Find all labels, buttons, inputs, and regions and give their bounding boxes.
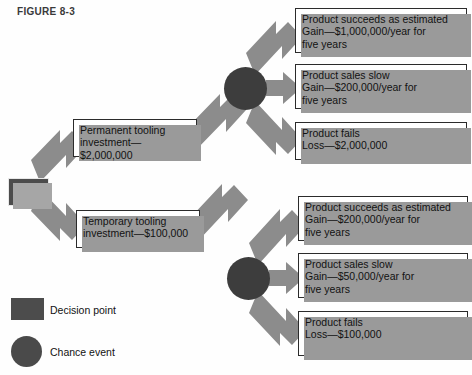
decision-point-square[interactable] — [8, 178, 49, 206]
legend-chance-swatch — [11, 336, 42, 367]
outcome-box-temp-slow[interactable]: Product sales slow Gain—$50,000/year for… — [298, 253, 468, 298]
arrow-chance-upper-to-outcome-1 — [246, 21, 302, 75]
legend-label-chance-event: Chance event — [50, 346, 115, 358]
outcome-box-perm-succeeds[interactable]: Product succeeds as estimated Gain—$1,00… — [295, 8, 467, 53]
legend-decision-swatch — [11, 298, 44, 320]
arrow-chance-upper-to-outcome-3 — [246, 101, 302, 155]
chance-event-upper-circle[interactable] — [224, 67, 267, 110]
chance-event-lower-circle[interactable] — [227, 257, 270, 300]
outcome-box-perm-slow[interactable]: Product sales slow Gain—$200,000/year fo… — [295, 64, 467, 109]
decision-box-temporary[interactable]: Temporary tooling investment—$100,000 — [76, 210, 200, 248]
decision-box-permanent[interactable]: Permanent tooling investment—$2,000,000 — [73, 119, 197, 157]
outcome-box-temp-succeeds[interactable]: Product succeeds as estimated Gain—$200,… — [298, 196, 468, 241]
outcome-box-temp-fails[interactable]: Product fails Loss—$100,000 — [298, 311, 468, 356]
legend-label-decision-point: Decision point — [50, 304, 116, 316]
outcome-box-perm-fails[interactable]: Product fails Loss—$2,000,000 — [295, 122, 467, 160]
decision-tree-figure: FIGURE 8-3 — [0, 0, 472, 375]
